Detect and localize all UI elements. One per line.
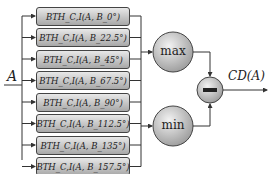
bth-label: BTH_C,I(A, B_0°) bbox=[46, 12, 120, 22]
minus-icon bbox=[203, 88, 217, 92]
bth-box-67-5: BTH_C,I(A, B_67.5°) bbox=[36, 71, 130, 90]
bth-box-22-5: BTH_C,I(A, B_22.5°) bbox=[36, 28, 130, 47]
bth-label: BTH_C,I(A, B_112.5°) bbox=[36, 119, 129, 129]
max-label: max bbox=[153, 44, 193, 58]
bth-label: BTH_C,I(A, B_90°) bbox=[43, 98, 123, 108]
bth-box-45: BTH_C,I(A, B_45°) bbox=[36, 50, 130, 69]
input-label: A bbox=[7, 68, 17, 84]
bth-label: BTH_C,I(A, B_135°) bbox=[41, 141, 126, 151]
bth-label: BTH_C,I(A, B_157.5°) bbox=[36, 162, 129, 172]
bth-label: BTH_C,I(A, B_67.5°) bbox=[39, 76, 127, 86]
bth-box-112-5: BTH_C,I(A, B_112.5°) bbox=[36, 114, 130, 133]
bth-box-135: BTH_C,I(A, B_135°) bbox=[36, 136, 130, 155]
bth-box-90: BTH_C,I(A, B_90°) bbox=[36, 93, 130, 112]
bth-label: BTH_C,I(A, B_45°) bbox=[43, 55, 123, 65]
bth-box-157-5: BTH_C,I(A, B_157.5°) bbox=[36, 157, 130, 174]
min-label: min bbox=[153, 118, 193, 132]
output-label: CD(A) bbox=[228, 69, 265, 83]
bth-label: BTH_C,I(A, B_22.5°) bbox=[39, 33, 127, 43]
bth-box-0: BTH_C,I(A, B_0°) bbox=[36, 7, 130, 26]
